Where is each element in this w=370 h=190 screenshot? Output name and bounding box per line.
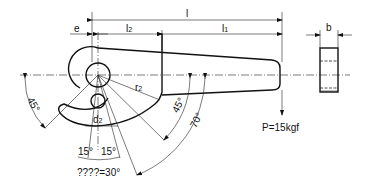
label-angle-right-45: 45° — [170, 96, 187, 115]
arc-30 — [78, 157, 120, 160]
ray-45-right — [98, 75, 164, 140]
label-load: P=15kgf — [262, 122, 299, 133]
hook-top-curve — [69, 47, 98, 88]
label-r2: r2 — [135, 82, 142, 93]
label-angle-15-right: 15° — [101, 146, 116, 157]
hook-lever-drawing: e l l2 l1 b r2 d2 45° 45° 70° 15° 15° ??… — [0, 0, 370, 190]
label-angle-right-70: 70° — [188, 111, 205, 130]
label-angle-total: ????=30° — [77, 167, 120, 178]
label-l1: l1 — [222, 23, 228, 34]
r2-line — [98, 75, 160, 100]
ray-45-left — [45, 75, 98, 128]
side-view-body — [320, 48, 338, 92]
label-angle-15-left: 15° — [78, 146, 93, 157]
label-l: l — [186, 8, 188, 19]
label-b: b — [326, 22, 332, 33]
label-e: e — [74, 23, 80, 34]
label-d2: d2 — [93, 114, 103, 125]
label-l2: l2 — [126, 23, 132, 34]
